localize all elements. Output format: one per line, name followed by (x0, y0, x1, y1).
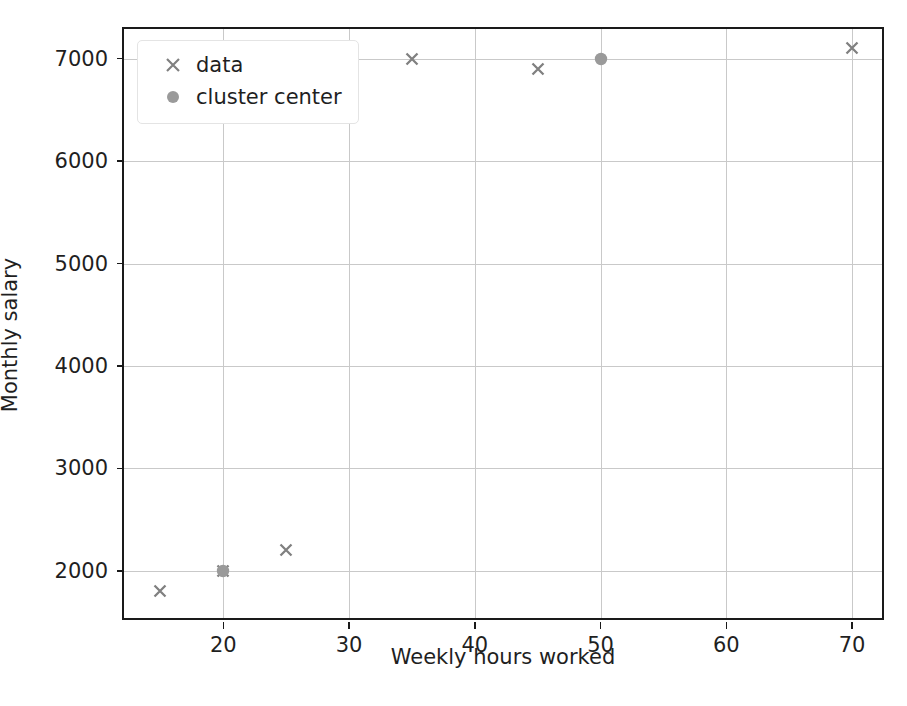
y-axis-tick-label: 3000 (55, 456, 108, 480)
y-axis-tick-label: 4000 (55, 354, 108, 378)
x-axis-label: Weekly hours worked (122, 645, 884, 669)
data-point-x-marker (276, 540, 296, 560)
chart-legend: data cluster center (137, 40, 359, 124)
y-axis-tick-label: 6000 (55, 149, 108, 173)
y-axis-tick (117, 468, 124, 470)
x-axis-tick (726, 622, 728, 629)
y-axis-tick (117, 365, 124, 367)
cluster-center-marker (213, 561, 233, 581)
scatter-plot-figure: data cluster center 20304050607020003000… (0, 0, 907, 706)
x-axis-tick (223, 622, 225, 629)
legend-label-cluster-center: cluster center (196, 85, 342, 109)
y-axis-tick (117, 570, 124, 572)
data-point-x-marker (150, 581, 170, 601)
legend-entry-cluster-center: cluster center (150, 81, 342, 113)
cluster-center-marker (591, 49, 611, 69)
x-axis-tick (474, 622, 476, 629)
y-axis-label: Monthly salary (0, 125, 22, 545)
y-axis-tick-label: 5000 (55, 252, 108, 276)
y-axis-tick (117, 263, 124, 265)
x-marker-icon (150, 55, 196, 75)
legend-label-data: data (196, 53, 243, 77)
y-axis-tick-label: 2000 (55, 559, 108, 583)
data-point-x-marker (402, 49, 422, 69)
legend-entry-data: data (150, 49, 342, 81)
y-axis-tick-label: 7000 (55, 47, 108, 71)
y-axis-tick (117, 58, 124, 60)
circle-marker-icon (150, 87, 196, 107)
plot-area: data cluster center 20304050607020003000… (122, 27, 884, 620)
y-axis-tick (117, 160, 124, 162)
x-axis-tick (348, 622, 350, 629)
x-axis-tick (851, 622, 853, 629)
data-point-x-marker (842, 38, 862, 58)
x-axis-tick (600, 622, 602, 629)
data-point-x-marker (528, 59, 548, 79)
